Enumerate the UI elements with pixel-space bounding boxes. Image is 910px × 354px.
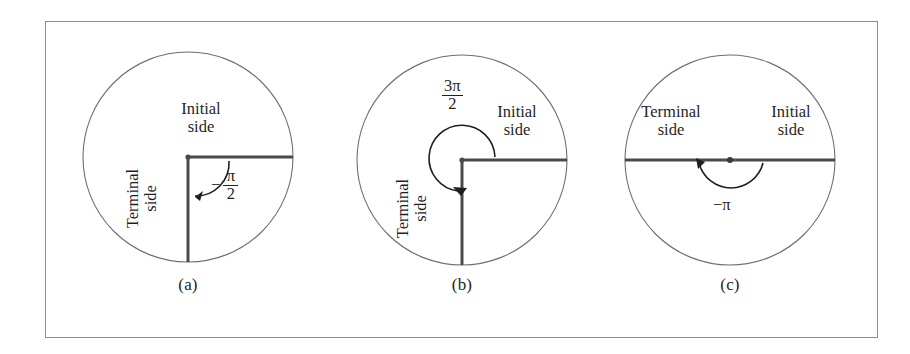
angle-arrowhead-b xyxy=(453,187,467,196)
initial-side-label-a-line1: Initial xyxy=(181,99,220,118)
vertex-dot-b xyxy=(459,157,464,162)
panel-a: Initial side Terminal side − π 2 (a) xyxy=(43,0,333,354)
angle-value-a: − π 2 xyxy=(211,168,238,203)
angle-denominator-a: 2 xyxy=(225,186,237,203)
initial-side-label-c-line1: Initial xyxy=(771,102,810,121)
initial-side-label-a-line2: side xyxy=(188,117,215,136)
figure-root: Initial side Terminal side − π 2 (a) xyxy=(0,0,910,354)
angle-numerator-a: π xyxy=(225,168,237,185)
angle-value-b: 3π 2 xyxy=(439,78,463,113)
angle-display-c: −π xyxy=(713,195,731,214)
terminal-side-label-c: Terminal side xyxy=(621,103,721,140)
terminal-side-label-c-line2: side xyxy=(658,120,685,139)
panel-a-drawing xyxy=(43,0,333,354)
angle-arc-c xyxy=(699,163,763,188)
initial-side-label-c: Initial side xyxy=(743,103,839,140)
vertex-dot-a xyxy=(185,154,190,159)
panel-caption-a: (a) xyxy=(43,275,333,295)
terminal-side-label-c-line1: Terminal xyxy=(641,102,700,121)
initial-side-label-b: Initial side xyxy=(467,103,567,140)
panel-b-drawing xyxy=(317,0,607,354)
panel-caption-b: (b) xyxy=(317,275,607,295)
angle-sign-a: − xyxy=(211,177,220,194)
panel-caption-c: (c) xyxy=(585,275,875,295)
terminal-side-label-b: Terminal side xyxy=(394,153,431,263)
terminal-side-label-b-line1: Terminal xyxy=(393,179,412,238)
angle-numerator-b: 3π xyxy=(442,78,463,95)
panel-c: Initial side Terminal side −π (c) xyxy=(585,0,875,354)
angle-value-c: −π xyxy=(713,195,731,215)
terminal-side-label-a-line2: side xyxy=(141,185,160,212)
angle-fraction-a: π 2 xyxy=(223,168,238,203)
panel-c-drawing xyxy=(585,0,875,354)
initial-side-label-a: Initial side xyxy=(151,100,251,137)
vertex-dot-c xyxy=(727,157,733,163)
terminal-side-label-b-line2: side xyxy=(411,195,430,222)
terminal-side-label-a-line1: Terminal xyxy=(123,169,142,228)
initial-side-label-b-line1: Initial xyxy=(497,102,536,121)
angle-fraction-b: 3π 2 xyxy=(442,78,463,113)
initial-side-label-c-line2: side xyxy=(778,120,805,139)
terminal-side-label-a: Terminal side xyxy=(124,143,161,253)
initial-side-label-b-line2: side xyxy=(504,120,531,139)
panel-b: Initial side Terminal side 3π 2 (b) xyxy=(317,0,607,354)
angle-denominator-b: 2 xyxy=(446,96,458,113)
